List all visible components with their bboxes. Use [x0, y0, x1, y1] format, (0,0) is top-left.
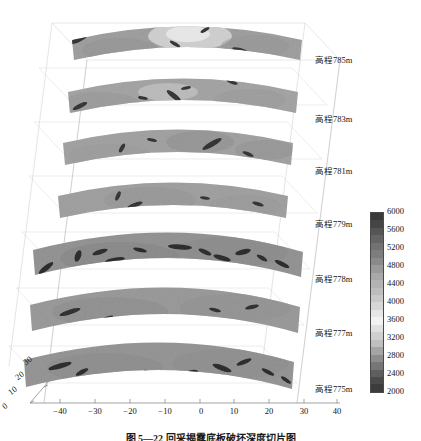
colorbar-tick-5200: 5200 [387, 242, 404, 252]
colorbar-tick-labels: 6000560052004800440040003600320028002400… [387, 206, 421, 399]
colorbar-band [371, 235, 383, 242]
colorbar-band [371, 258, 383, 265]
slice-781 [20, 112, 320, 172]
colorbar-band [371, 295, 383, 302]
slice-775 [20, 318, 320, 393]
axes-frame [0, 0, 421, 441]
depth-tick-0: 0 [0, 400, 9, 411]
x-tick-minus40: −40 [47, 406, 73, 416]
colorbar-band [371, 273, 383, 280]
colorbar-band [371, 384, 383, 391]
x-tick-40: 40 [324, 406, 350, 416]
colorbar-gradient [370, 212, 384, 393]
slice-785 [20, 8, 320, 68]
colorbar-tick-4800: 4800 [387, 260, 404, 270]
elevation-label-777: 高程777m [315, 326, 352, 338]
elevation-label-778: 高程778m [315, 272, 352, 284]
x-tick-10: 10 [221, 406, 247, 416]
slice-777 [20, 262, 320, 337]
colorbar-tick-6000: 6000 [387, 206, 404, 216]
colorbar-band [371, 370, 383, 377]
colorbar-band [371, 228, 383, 235]
slice-779 [20, 165, 320, 225]
colorbar-band [371, 325, 383, 332]
colorbar-tick-2400: 2400 [387, 368, 404, 378]
colorbar-band [371, 302, 383, 309]
elevation-label-783: 高程783m [315, 112, 352, 124]
slice-783 [20, 60, 320, 120]
colorbar-band [371, 265, 383, 272]
colorbar-band [371, 317, 383, 324]
colorbar-band [371, 250, 383, 257]
x-tick-minus10: −10 [152, 406, 178, 416]
elevation-label-785: 高程785m [315, 53, 352, 65]
depth-tick-20: 20 [13, 369, 26, 382]
colorbar-tick-3600: 3600 [387, 314, 404, 324]
colorbar-band [371, 355, 383, 362]
elevation-label-781: 高程781m [315, 164, 352, 176]
x-tick-minus20: −20 [117, 406, 143, 416]
colorbar-band [371, 377, 383, 384]
elevation-label-775: 高程775m [315, 382, 352, 394]
colorbar-band [371, 340, 383, 347]
colorbar-band [371, 332, 383, 339]
colorbar-band [371, 213, 383, 220]
depth-tick-30: 30 [21, 354, 34, 367]
x-tick-30: 30 [291, 406, 317, 416]
figure-caption: 图 5—22 回采揭露底板破坏深度切片图 [0, 430, 421, 441]
colorbar-tick-4000: 4000 [387, 296, 404, 306]
colorbar-band [371, 288, 383, 295]
slice-figure: 高程785m 高程783m 高程781m 高程779m 高程778m 高程777… [0, 0, 421, 441]
x-tick-20: 20 [256, 406, 282, 416]
colorbar-band [371, 243, 383, 250]
colorbar-band [371, 280, 383, 287]
elevation-label-779: 高程779m [315, 217, 352, 229]
x-tick-minus30: −30 [82, 406, 108, 416]
colorbar-tick-2800: 2800 [387, 350, 404, 360]
x-tick-0: 0 [188, 406, 214, 416]
slice-stack [0, 0, 421, 441]
colorbar-band [371, 347, 383, 354]
colorbar-tick-5600: 5600 [387, 224, 404, 234]
colorbar-tick-3200: 3200 [387, 332, 404, 342]
slice-778 [20, 208, 320, 283]
colorbar: 6000560052004800440040003600320028002400… [370, 212, 384, 393]
depth-tick-10: 10 [6, 384, 19, 397]
colorbar-tick-2000: 2000 [387, 386, 404, 396]
colorbar-band [371, 310, 383, 317]
colorbar-band [371, 362, 383, 369]
colorbar-band [371, 220, 383, 227]
colorbar-tick-4400: 4400 [387, 278, 404, 288]
